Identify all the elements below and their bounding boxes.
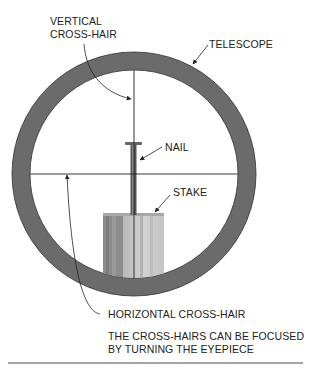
horizontal-crosshair-leader	[67, 175, 100, 314]
label-nail: NAIL	[165, 141, 189, 153]
nail-leader	[140, 147, 162, 160]
telescope-leader	[193, 45, 208, 64]
label-telescope: TELESCOPE	[209, 38, 273, 50]
stake-leader	[155, 195, 170, 212]
caption-line-1: THE CROSS-HAIRS CAN BE FOCUSED	[108, 330, 304, 342]
label-horizontal-crosshair: HORIZONTAL CROSS-HAIR	[108, 308, 246, 320]
label-vertical-crosshair-1: VERTICAL	[50, 15, 102, 27]
label-stake: STAKE	[173, 186, 207, 198]
nail	[125, 142, 142, 215]
caption-line-2: BY TURNING THE EYEPIECE	[108, 343, 254, 355]
label-vertical-crosshair-2: CROSS-HAIR	[50, 28, 117, 40]
telescope-view-diagram: VERTICAL CROSS-HAIR TELESCOPE NAIL STAKE…	[0, 0, 311, 371]
